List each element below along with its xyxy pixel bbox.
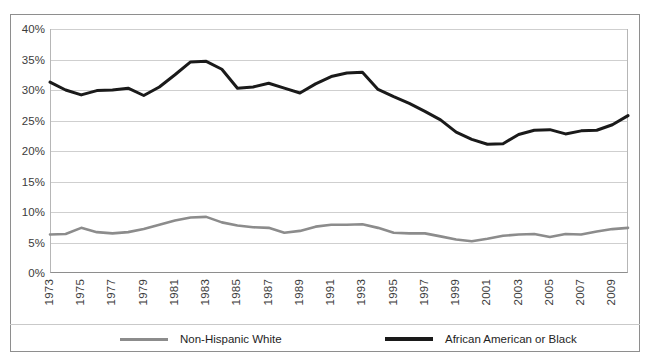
legend-label-african-american-or-black: African American or Black: [445, 333, 577, 345]
series-line: [50, 217, 628, 241]
chart-legend: Non-Hispanic White African American or B…: [10, 324, 640, 352]
chart-container: 0%5%10%15%20%25%30%35%40% 19731975197719…: [0, 0, 650, 363]
legend-item-non-hispanic-white: Non-Hispanic White: [120, 331, 282, 347]
legend-item-african-american-or-black: African American or Black: [385, 331, 577, 347]
legend-label-non-hispanic-white: Non-Hispanic White: [180, 333, 282, 345]
series-line: [50, 61, 628, 144]
legend-swatch-african-american-or-black: [385, 337, 433, 341]
legend-swatch-non-hispanic-white: [120, 338, 168, 341]
chart-lines: [0, 0, 650, 363]
